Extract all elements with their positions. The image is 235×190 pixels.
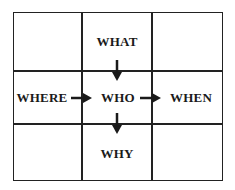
arrow-right-icon — [71, 92, 93, 104]
label-when: WHEN — [170, 90, 212, 106]
arrow-down-icon — [111, 60, 123, 82]
arrow-down-icon — [111, 113, 123, 135]
label-what: WHAT — [96, 34, 137, 50]
label-why: WHY — [100, 146, 133, 162]
arrow-right-icon — [140, 92, 162, 104]
label-who: WHO — [101, 90, 135, 106]
label-where: WHERE — [17, 90, 68, 106]
